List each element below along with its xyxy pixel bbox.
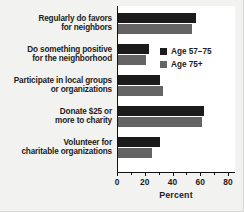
x-axis-title: Percent [117,190,235,200]
category-label-line: Participate in local groups [14,76,112,85]
bar-age-75-plus [117,24,192,34]
bar-age-75-plus [117,148,152,158]
category-label: Participate in local groups or organizat… [2,76,112,95]
x-tick-minor [186,172,187,175]
legend-item: Age 57–75 [160,46,212,57]
x-tick-minor [131,172,132,175]
x-tick-label: 40 [168,177,177,187]
bar-age-75-plus [117,55,146,65]
bar-age-57-75 [117,75,160,85]
category-label-line: Regularly do favors [38,14,112,23]
x-tick [200,172,201,176]
legend-label: Age 75+ [171,60,203,69]
category-label-line: for neighbors [61,24,112,33]
legend-swatch-icon [160,61,167,68]
x-tick-label: 80 [223,177,232,187]
bar-group [117,136,237,160]
chart-category-row: Regularly do favors for neighbors [0,8,244,39]
legend-label: Age 57–75 [171,47,212,56]
x-tick [228,172,229,176]
category-label-line: Do something positive [27,45,112,54]
chart-legend: Age 57–75 Age 75+ [160,46,212,72]
x-tick-label: 20 [140,177,149,187]
x-tick-minor [214,172,215,175]
chart-category-row: Donate $25 or more to charity [0,101,244,132]
category-label-line: charitable organizations [21,148,112,157]
bar-age-75-plus [117,117,202,127]
category-label: Do something positive for the neighborho… [2,45,112,64]
x-tick-minor [159,172,160,175]
bar-age-57-75 [117,44,149,54]
category-label: Donate $25 or more to charity [2,107,112,126]
x-axis-line [117,172,235,173]
bar-group [117,105,237,129]
bar-chart: Regularly do favors for neighbors Do som… [0,0,244,212]
x-tick-label: 60 [196,177,205,187]
x-tick [173,172,174,176]
bar-age-57-75 [117,13,196,23]
chart-category-row: Volunteer for charitable organizations [0,132,244,163]
category-label-line: Donate $25 or [60,107,112,116]
bar-age-57-75 [117,106,204,116]
bar-age-75-plus [117,86,163,96]
legend-item: Age 75+ [160,59,212,70]
x-tick [145,172,146,176]
category-label: Volunteer for charitable organizations [2,138,112,157]
legend-swatch-icon [160,48,167,55]
category-label-line: more to charity [55,117,112,126]
category-label-line: or organizations [51,86,112,95]
bar-age-57-75 [117,137,160,147]
category-label-line: Volunteer for [64,138,112,147]
x-tick [117,172,118,176]
y-axis-line [117,6,118,172]
category-label-line: for the neighborhood [32,55,112,64]
bar-group [117,12,237,36]
bar-group [117,74,237,98]
category-label: Regularly do favors for neighbors [2,14,112,33]
chart-category-row: Participate in local groups or organizat… [0,70,244,101]
x-tick-label: 0 [115,177,120,187]
